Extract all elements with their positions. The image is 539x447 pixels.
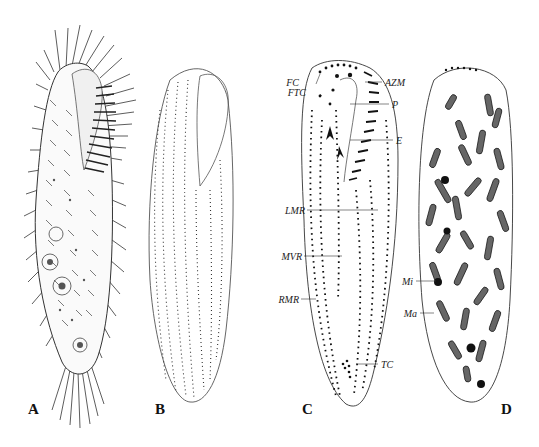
label-mi: Mi <box>401 276 413 287</box>
label-rmr: RMR <box>277 294 299 305</box>
panel-d-nuclear-apparatus: Mi Ma D <box>401 67 513 417</box>
figure-canvas: A B <box>0 0 539 447</box>
label-p: P <box>391 99 398 110</box>
label-e: E <box>395 135 402 146</box>
label-tc: TC <box>381 359 394 370</box>
panel-a-cell: A <box>24 25 136 428</box>
label-ma: Ma <box>403 308 417 319</box>
panel-label-d: D <box>501 401 512 417</box>
panel-label-c: C <box>302 401 313 417</box>
panel-label-b: B <box>155 401 165 417</box>
label-mvr: MVR <box>280 251 302 262</box>
label-ftc: FTC <box>287 87 307 98</box>
label-azm: AZM <box>384 77 406 88</box>
label-lmr: LMR <box>284 205 305 216</box>
panel-b-cell: B <box>149 69 233 417</box>
panel-label-a: A <box>28 401 39 417</box>
panel-c-infraciliature: FC FTC AZM P E LMR MVR RMR TC C <box>277 61 405 418</box>
